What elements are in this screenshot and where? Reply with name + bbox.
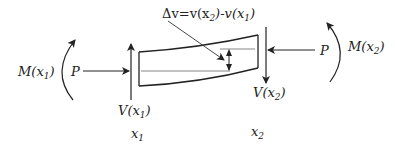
- shear-left-label: V(x1): [118, 103, 151, 120]
- beam-diagram: Δv=v(x2)-v(x1) M(x1) P V(x1) x1 V(x2) x2…: [0, 0, 399, 145]
- axial-left-label: P: [70, 64, 80, 79]
- moment-right-arrow: [327, 23, 340, 82]
- shear-right-label: V(x2): [253, 85, 286, 102]
- delta-v-dimension-arrow: [226, 49, 232, 71]
- axial-right-label: P: [319, 43, 329, 58]
- delta-v-label: Δv=v(x2)-v(x1): [162, 6, 255, 23]
- leader-arrow: [168, 21, 224, 60]
- position-left-label: x1: [131, 126, 144, 143]
- moment-right-label: M(x2): [347, 39, 385, 56]
- position-right-label: x2: [251, 124, 264, 141]
- moment-left-label: M(x1): [17, 64, 55, 81]
